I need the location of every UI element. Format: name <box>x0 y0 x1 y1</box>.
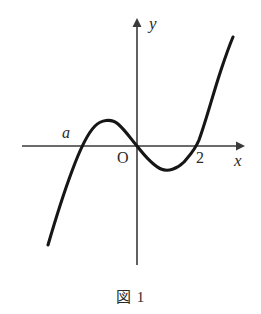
x-intercept-label-two: 2 <box>196 150 204 166</box>
x-axis-arrowhead-icon <box>236 142 245 151</box>
figure-container: a y x O 2 図 1 <box>0 0 261 314</box>
figure-caption: 図 1 <box>0 285 261 306</box>
y-axis-arrowhead-icon <box>133 18 142 27</box>
cubic-graph-svg <box>0 0 261 314</box>
x-axis-label: x <box>234 152 242 169</box>
cubic-curve <box>48 37 233 245</box>
x-intercept-label-a: a <box>62 125 70 141</box>
y-axis-label: y <box>149 15 157 32</box>
origin-label: O <box>117 150 129 166</box>
